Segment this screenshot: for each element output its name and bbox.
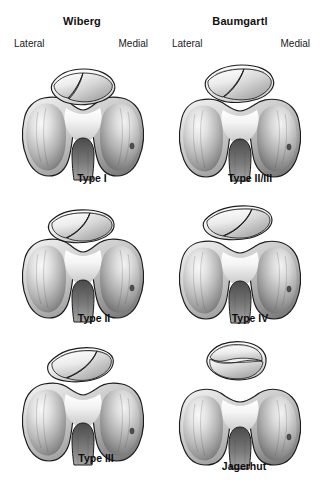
orientation-label-lateral-wiberg: Lateral [14,38,45,49]
condyle-marking [130,143,134,149]
column-title-wiberg: Wiberg [63,15,101,27]
orientation-label-medial-baumgartl: Medial [281,38,310,49]
orientation-label-lateral-baumgartl: Lateral [172,38,203,49]
condyle-marking [287,434,291,440]
condyle-marking [287,144,291,150]
condyle-marking [130,428,134,434]
orientation-label-medial-wiberg: Medial [119,38,148,49]
type-label-baumgartl-2-3: Type II/III [228,172,272,184]
condyle-marking [130,285,134,291]
condyle-marking [287,286,291,292]
type-label-baumgartl-jagerhut: Jagerhut [222,460,266,472]
type-label-baumgartl-4: Type IV [232,312,269,324]
type-label-wiberg-2: Type II [78,312,110,324]
type-label-wiberg-3: Type III [78,452,113,464]
patella-classification-figure: Wiberg Baumgartl Lateral Medial Lateral … [0,0,324,484]
type-label-wiberg-1: Type I [77,172,107,184]
column-title-baumgartl: Baumgartl [212,15,267,27]
